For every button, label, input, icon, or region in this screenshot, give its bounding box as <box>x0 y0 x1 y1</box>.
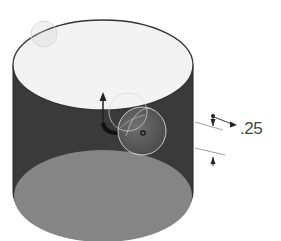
cad-viewport[interactable]: .25 <box>0 0 281 241</box>
dimension-label[interactable]: .25 <box>240 119 262 139</box>
ghost-sphere-icon <box>31 21 57 47</box>
dimension-extension-lines <box>195 122 225 155</box>
cylinder-bottom-face <box>14 150 192 241</box>
cylinder-drawing <box>0 0 281 241</box>
dimension-arrows-icon[interactable] <box>211 114 238 166</box>
